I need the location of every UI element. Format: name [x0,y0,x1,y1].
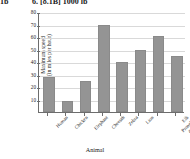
x-tick-mark [157,113,158,116]
x-tick-label: Cheetah [111,115,126,130]
worksheet-header: 1b 6. [8.1B] 1000 lb [0,0,190,9]
y-tick-label: 30 [31,73,36,78]
y-tick-label: 80 [31,10,36,15]
x-tick-mark [102,113,103,116]
bar [98,25,109,113]
x-axis-tick-labels: HumanChickenElephantCheetahZebraLionPron… [38,113,184,146]
header-problem-statement: 6. [8.1B] 1000 lb [32,0,87,6]
header-reference: [8.1B] [40,0,61,6]
bar-series [40,13,184,112]
bar [171,56,182,112]
header-problem-left: 1b [0,0,9,6]
x-axis-title: Animal [0,146,190,153]
x-tick-label: Zebra [127,115,139,127]
bar [80,81,91,112]
header-trailing-text: 1000 lb [63,0,88,6]
x-tick-label: Chicken [74,115,89,130]
bar [135,50,146,113]
plot-area [38,13,184,113]
bar [153,36,164,112]
bar [62,101,73,112]
chart-page: 1b 6. [8.1B] 1000 lb Maximum speed (in m… [0,0,190,159]
y-tick-label: 20 [31,85,36,90]
x-tick-mark [47,113,48,116]
y-tick-label: 10 [31,98,36,103]
y-axis-tick-labels: 1020304050607080 [24,13,36,114]
y-tick-label: 50 [31,48,36,53]
x-tick-mark [175,113,176,116]
x-tick-mark [84,113,85,116]
x-tick-mark [138,113,139,116]
x-tick-label: Lion [145,115,155,125]
y-tick-label: 70 [31,23,36,28]
x-tick-label: Human [55,115,69,129]
y-axis-title: Maximum speed (in miles per hour) [2,30,16,102]
x-tick-mark [65,113,66,116]
y-tick-label: 60 [31,35,36,40]
x-tick-mark [120,113,121,116]
bar [43,77,54,112]
x-tick-label: Elephant [93,115,109,131]
y-tick-label: 40 [31,60,36,65]
bar [116,62,127,112]
header-problem-number: 6. [32,0,38,6]
